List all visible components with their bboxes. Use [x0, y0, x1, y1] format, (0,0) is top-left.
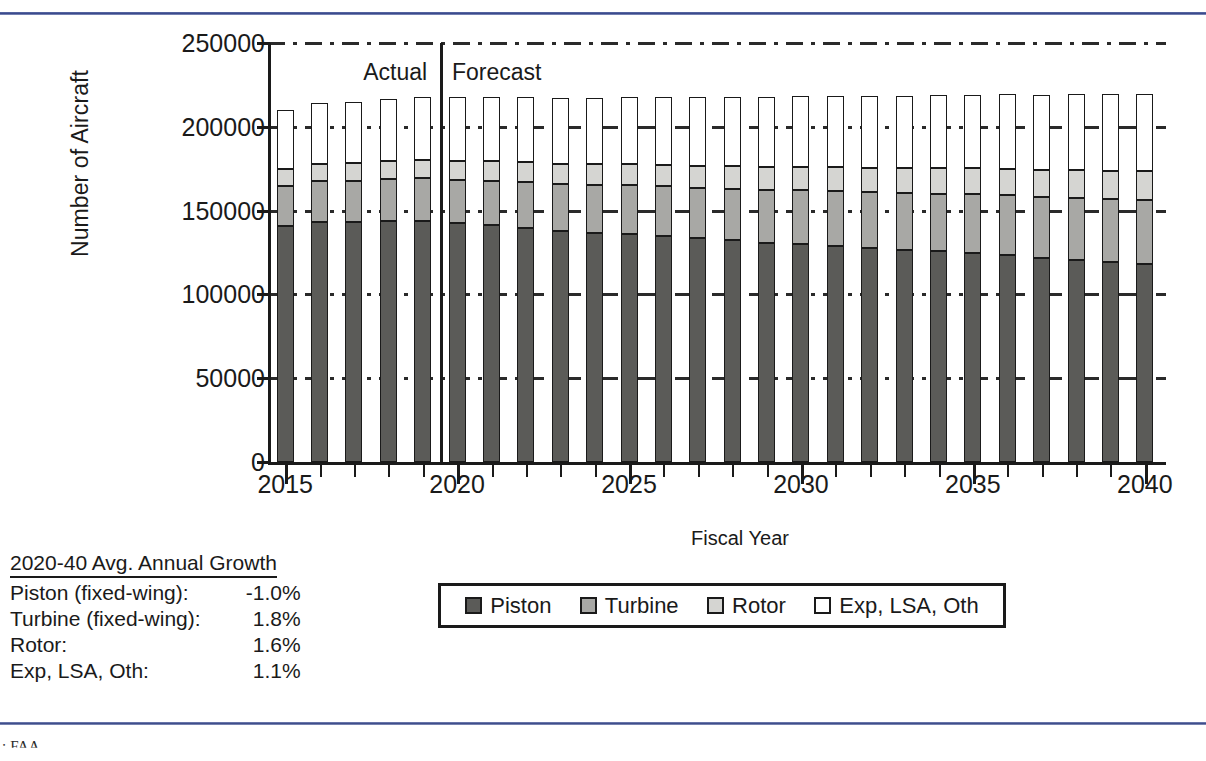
bar-segment-piston: [1102, 262, 1119, 462]
growth-row-value: 1.6%: [229, 632, 301, 658]
bar-segment-piston: [655, 236, 672, 462]
bar-2018: [380, 99, 397, 462]
legend-swatch-icon-turbine: [580, 597, 597, 614]
gridline: [268, 210, 1166, 213]
bar-2016: [311, 103, 328, 462]
bar-segment-turbine: [345, 181, 362, 222]
bar-segment-rotor: [414, 160, 431, 178]
legend-item-other[interactable]: Exp, LSA, Oth: [814, 593, 978, 619]
y-tick-label: 250000: [182, 29, 265, 58]
bar-segment-rotor: [621, 164, 638, 185]
bar-segment-rotor: [380, 161, 397, 179]
bar-segment-other: [1033, 95, 1050, 170]
bar-segment-piston: [1068, 260, 1085, 462]
x-axis-line: [268, 462, 1166, 465]
bar-segment-other: [999, 94, 1016, 168]
x-tick-label: 2015: [257, 470, 313, 499]
legend-item-label: Turbine: [605, 593, 679, 619]
bar-2025: [621, 97, 638, 462]
bar-segment-turbine: [621, 185, 638, 234]
y-tick-label: 100000: [182, 280, 265, 309]
growth-row-value: -1.0%: [229, 580, 301, 606]
y-tick-mark: [257, 377, 270, 380]
bar-segment-piston: [896, 250, 913, 462]
legend-item-label: Rotor: [732, 593, 786, 619]
x-tick-mark-minor: [595, 465, 597, 477]
bar-segment-other: [517, 97, 534, 162]
bar-segment-other: [758, 97, 775, 167]
bar-2017: [345, 102, 362, 462]
bar-2028: [724, 97, 741, 462]
bar-2036: [999, 94, 1016, 462]
x-tick-mark-minor: [732, 465, 734, 477]
bar-segment-other: [1102, 94, 1119, 170]
gridline: [268, 42, 1166, 45]
bar-segment-other: [724, 97, 741, 166]
bar-segment-piston: [964, 253, 981, 462]
bar-segment-other: [449, 97, 466, 161]
bar-2032: [861, 96, 878, 462]
x-tick-mark-minor: [870, 465, 872, 477]
legend-item-turbine[interactable]: Turbine: [580, 593, 679, 619]
x-tick-mark-minor: [354, 465, 356, 477]
bar-segment-other: [1068, 94, 1085, 170]
x-tick-mark-minor: [767, 465, 769, 477]
bar-2030: [792, 96, 809, 462]
legend-swatch-icon-piston: [465, 597, 482, 614]
bar-segment-rotor: [517, 162, 534, 182]
legend-item-label: Piston: [490, 593, 551, 619]
x-tick-mark-minor: [939, 465, 941, 477]
bar-2031: [827, 96, 844, 462]
legend-item-piston[interactable]: Piston: [465, 593, 551, 619]
y-tick-mark: [257, 210, 270, 213]
bar-segment-other: [964, 95, 981, 169]
bar-2026: [655, 97, 672, 462]
bar-2015: [277, 110, 294, 462]
bar-segment-rotor: [1136, 171, 1153, 200]
bar-segment-turbine: [277, 186, 294, 226]
bar-segment-piston: [792, 244, 809, 462]
bar-segment-turbine: [1102, 199, 1119, 262]
bar-2029: [758, 97, 775, 462]
bar-segment-piston: [449, 223, 466, 462]
bar-segment-other: [483, 97, 500, 161]
bar-segment-turbine: [930, 194, 947, 252]
x-tick-label: 2035: [945, 470, 1001, 499]
x-tick-mark-minor: [1076, 465, 1078, 477]
y-tick-label: 50000: [195, 364, 265, 393]
bar-2022: [517, 97, 534, 462]
y-axis-tick-labels: 050000100000150000200000250000: [80, 0, 265, 480]
bar-segment-piston: [311, 222, 328, 462]
bar-segment-rotor: [345, 163, 362, 181]
bar-segment-turbine: [552, 184, 569, 231]
legend-swatch-icon-other: [814, 597, 831, 614]
bar-segment-other: [861, 96, 878, 168]
bar-segment-piston: [552, 231, 569, 462]
growth-row-label: Rotor:: [10, 632, 229, 658]
bar-segment-rotor: [277, 169, 294, 186]
bar-segment-other: [792, 96, 809, 166]
legend-item-rotor[interactable]: Rotor: [707, 593, 786, 619]
bar-segment-rotor: [689, 166, 706, 188]
bar-segment-piston: [1136, 264, 1153, 462]
bar-segment-turbine: [414, 178, 431, 221]
bar-segment-piston: [758, 243, 775, 462]
bar-segment-rotor: [1068, 170, 1085, 198]
bar-segment-turbine: [999, 195, 1016, 255]
bar-segment-piston: [483, 225, 500, 462]
bar-segment-turbine: [586, 185, 603, 233]
y-tick-mark: [257, 126, 270, 129]
growth-table-heading: 2020-40 Avg. Annual Growth: [10, 551, 277, 578]
bar-segment-other: [380, 99, 397, 161]
legend-item-label: Exp, LSA, Oth: [839, 593, 978, 619]
bar-segment-turbine: [896, 193, 913, 250]
growth-summary-table: 2020-40 Avg. Annual Growth Piston (fixed…: [10, 551, 301, 684]
bar-2038: [1068, 94, 1085, 462]
bar-segment-rotor: [861, 168, 878, 193]
bar-segment-piston: [1033, 258, 1050, 462]
bar-segment-rotor: [758, 167, 775, 190]
x-tick-mark-minor: [388, 465, 390, 477]
bar-segment-turbine: [689, 188, 706, 239]
bar-segment-other: [1136, 94, 1153, 171]
x-tick-mark-minor: [904, 465, 906, 477]
